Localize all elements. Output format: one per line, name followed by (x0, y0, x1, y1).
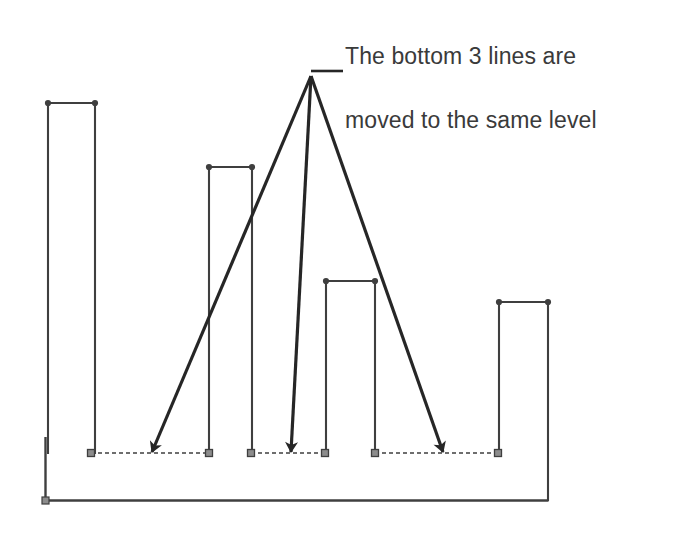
arrow-left (152, 76, 311, 452)
top-dot (545, 299, 551, 305)
annotation-caption: The bottom 3 lines are moved to the same… (345, 8, 675, 136)
top-dot (249, 164, 255, 170)
bar-3 (326, 281, 375, 453)
origin-corner-marker (42, 497, 49, 504)
top-dot (45, 100, 51, 106)
top-dot (206, 164, 212, 170)
annotation-line-2: moved to the same level (345, 107, 597, 133)
bar-2 (209, 167, 252, 453)
arrow-middle (291, 76, 311, 452)
top-dot (372, 278, 378, 284)
bar-1 (48, 103, 95, 453)
top-dot (92, 100, 98, 106)
level-square (495, 450, 502, 457)
figure-canvas: The bottom 3 lines are moved to the same… (0, 0, 680, 534)
level-square (372, 450, 379, 457)
level-square (206, 450, 213, 457)
level-square (88, 450, 95, 457)
top-dot (496, 299, 502, 305)
level-square (322, 450, 329, 457)
level-square (248, 450, 255, 457)
chart-axes (42, 437, 549, 504)
annotation-line-1: The bottom 3 lines are (345, 43, 576, 69)
top-dot (323, 278, 329, 284)
bar-4 (499, 302, 548, 500)
